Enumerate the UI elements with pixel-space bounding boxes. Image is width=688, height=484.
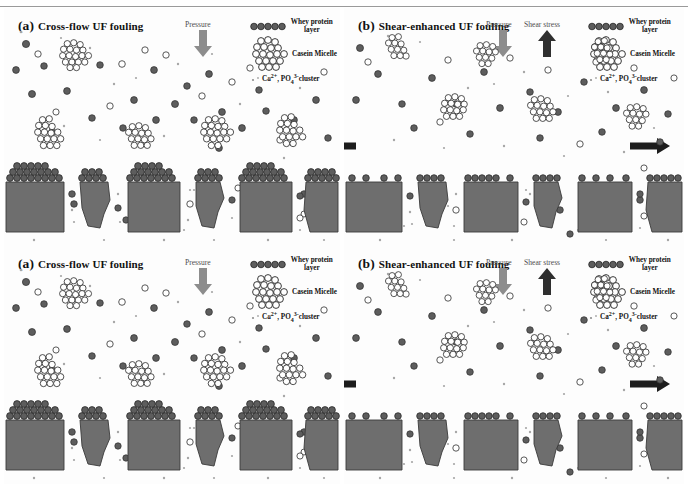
legend-item-casein-b: Casein Micelle bbox=[590, 36, 675, 72]
casein-micelle-symbol-icon bbox=[252, 36, 296, 72]
legend-label-casein-a-2: Casein Micelle bbox=[292, 288, 337, 296]
whey-protein-symbol-icon bbox=[250, 260, 286, 269]
membrane-assembly-a bbox=[4, 160, 340, 246]
shear-label-b: Shear stress bbox=[524, 20, 560, 29]
panel-a-2: (a)Cross-flow UF fouling Pressure Whey p… bbox=[4, 246, 340, 484]
pressure-label-b: Pressure bbox=[486, 20, 512, 29]
pressure-arrow-a-2-icon bbox=[194, 268, 212, 296]
legend-label-whey-a-2: Whey proteinlayer bbox=[291, 256, 333, 272]
crossflow-arrow-right-icon bbox=[630, 138, 670, 154]
legend-label-mineral-b: Ca2+, PO43-cluster bbox=[600, 72, 658, 86]
crossflow-arrow-right-2-icon bbox=[630, 376, 670, 392]
legend-label-casein-b: Casein Micelle bbox=[630, 50, 675, 58]
panel-b-2-label: (b) bbox=[358, 256, 375, 271]
mineral-cluster-symbol-icon bbox=[250, 75, 262, 83]
pressure-label-a: Pressure bbox=[185, 20, 211, 29]
membrane-assembly-b bbox=[344, 160, 684, 246]
panel-a: (a)Cross-flow UF fouling Pressure Whey p… bbox=[4, 8, 340, 246]
mineral-cluster-symbol-icon bbox=[250, 313, 262, 321]
legend-item-casein-a: Casein Micelle bbox=[252, 36, 337, 72]
figure-page: (a)Cross-flow UF fouling Pressure Whey p… bbox=[0, 0, 688, 484]
shear-label-b-2: Shear stress bbox=[524, 258, 560, 267]
legend-item-mineral-b-2: Ca2+, PO43-cluster bbox=[588, 310, 658, 324]
casein-micelle-symbol-icon bbox=[252, 274, 296, 310]
figure-instance-2: (a)Cross-flow UF fouling Pressure Whey p… bbox=[0, 246, 688, 484]
legend-item-casein-a-2: Casein Micelle bbox=[252, 274, 337, 310]
panel-a-title-text: Cross-flow UF fouling bbox=[38, 20, 143, 32]
panel-a-2-title-text: Cross-flow UF fouling bbox=[38, 258, 143, 270]
shear-arrow-b-2-icon bbox=[538, 268, 556, 296]
casein-micelle-symbol-icon bbox=[590, 274, 634, 310]
legend-label-whey-a: Whey proteinlayer bbox=[291, 18, 333, 34]
legend-label-mineral-a: Ca2+, PO43-cluster bbox=[262, 72, 320, 86]
legend-label-mineral-a-2: Ca2+, PO43-cluster bbox=[262, 310, 320, 324]
legend-label-casein-b-2: Casein Micelle bbox=[630, 288, 675, 296]
pressure-arrow-b-icon bbox=[494, 30, 512, 58]
panel-a-title: (a)Cross-flow UF fouling bbox=[18, 16, 143, 34]
pressure-arrow-b-2-icon bbox=[494, 268, 512, 296]
panel-b-label: (b) bbox=[358, 18, 375, 33]
crossflow-arrow-left-2-icon bbox=[344, 376, 356, 392]
legend-item-whey-a: Whey proteinlayer bbox=[250, 18, 333, 34]
legend-label-casein-a: Casein Micelle bbox=[292, 50, 337, 58]
whey-protein-symbol-icon bbox=[250, 22, 286, 31]
shear-arrow-b-icon bbox=[538, 30, 556, 58]
legend-item-mineral-b: Ca2+, PO43-cluster bbox=[588, 72, 658, 86]
membrane-assembly-a-2 bbox=[4, 398, 340, 484]
legend-label-whey-b-2: Whey proteinlayer bbox=[629, 256, 671, 272]
panel-a-2-title: (a)Cross-flow UF fouling bbox=[18, 254, 143, 272]
panel-a-2-label: (a) bbox=[18, 256, 34, 271]
pressure-arrow-a-icon bbox=[194, 30, 212, 58]
mineral-cluster-symbol-icon bbox=[588, 75, 600, 83]
page-top-rule bbox=[0, 6, 688, 7]
figure-instance-1: (a)Cross-flow UF fouling Pressure Whey p… bbox=[0, 8, 688, 246]
crossflow-arrow-left-icon bbox=[344, 138, 356, 154]
panel-b: (b)Shear-enhanced UF fouling Pressure Sh… bbox=[344, 8, 684, 246]
panel-a-label: (a) bbox=[18, 18, 34, 33]
legend-item-mineral-a: Ca2+, PO43-cluster bbox=[250, 72, 320, 86]
panel-b-2: (b)Shear-enhanced UF fouling Pressure Sh… bbox=[344, 246, 684, 484]
legend-item-whey-b-2: Whey proteinlayer bbox=[588, 256, 671, 272]
pressure-label-b-2: Pressure bbox=[486, 258, 512, 267]
pressure-label-a-2: Pressure bbox=[185, 258, 211, 267]
legend-item-whey-b: Whey proteinlayer bbox=[588, 18, 671, 34]
legend-item-whey-a-2: Whey proteinlayer bbox=[250, 256, 333, 272]
legend-label-whey-b: Whey proteinlayer bbox=[629, 18, 671, 34]
membrane-assembly-b-2 bbox=[344, 398, 684, 484]
legend-item-casein-b-2: Casein Micelle bbox=[590, 274, 675, 310]
whey-protein-symbol-icon bbox=[588, 22, 624, 31]
legend-label-mineral-b-2: Ca2+, PO43-cluster bbox=[600, 310, 658, 324]
whey-protein-symbol-icon bbox=[588, 260, 624, 269]
mineral-cluster-symbol-icon bbox=[588, 313, 600, 321]
legend-item-mineral-a-2: Ca2+, PO43-cluster bbox=[250, 310, 320, 324]
casein-micelle-symbol-icon bbox=[590, 36, 634, 72]
